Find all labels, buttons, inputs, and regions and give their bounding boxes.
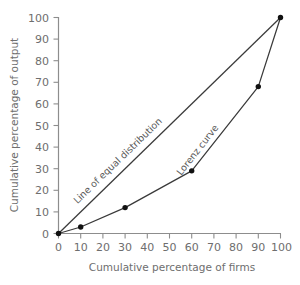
- x-axis-ticks: [59, 234, 281, 239]
- x-axis-tick-labels: 0 10 20 30 40 50 60 70 80 90 100: [55, 241, 292, 254]
- y-tick-label-80: 80: [35, 55, 49, 68]
- x-tick-label-30: 30: [118, 241, 132, 254]
- data-point: [78, 224, 83, 229]
- y-axis-tick-labels: 0 10 20 30 40 50 60 70 80 90 100: [28, 12, 49, 241]
- data-point: [189, 168, 194, 173]
- y-axis-title: Cumulative percentage of output: [8, 38, 20, 212]
- x-tick-label-100: 100: [271, 241, 292, 254]
- chart-canvas: 0 10 20 30 40 50 60 70 80 90 100: [0, 0, 300, 285]
- annotation-line-of-equal-distribution: Line of equal distribution: [71, 115, 164, 205]
- x-tick-label-40: 40: [140, 241, 154, 254]
- y-tick-label-90: 90: [35, 33, 49, 46]
- data-point: [56, 231, 61, 236]
- x-tick-label-50: 50: [163, 241, 177, 254]
- x-tick-label-20: 20: [96, 241, 110, 254]
- y-tick-label-40: 40: [35, 141, 49, 154]
- y-tick-label-20: 20: [35, 184, 49, 197]
- x-axis-title: Cumulative percentage of firms: [89, 261, 255, 273]
- y-tick-label-100: 100: [28, 12, 49, 25]
- y-tick-label-70: 70: [35, 76, 49, 89]
- x-tick-label-0: 0: [55, 241, 62, 254]
- annotation-lorenz-curve: Lorenz curve: [174, 122, 220, 177]
- y-tick-label-50: 50: [35, 120, 49, 133]
- data-point: [278, 15, 283, 20]
- x-tick-label-70: 70: [207, 241, 221, 254]
- y-tick-label-30: 30: [35, 163, 49, 176]
- y-tick-label-10: 10: [35, 206, 49, 219]
- data-point: [122, 205, 127, 210]
- y-axis-ticks: [54, 18, 59, 234]
- x-tick-label-90: 90: [251, 241, 265, 254]
- x-tick-label-60: 60: [185, 241, 199, 254]
- lorenz-curve-chart: 0 10 20 30 40 50 60 70 80 90 100: [0, 0, 300, 285]
- line-of-equal-distribution: [59, 18, 281, 234]
- x-tick-label-10: 10: [74, 241, 88, 254]
- data-point: [256, 84, 261, 89]
- x-tick-label-80: 80: [229, 241, 243, 254]
- y-tick-label-0: 0: [42, 228, 49, 241]
- y-tick-label-60: 60: [35, 98, 49, 111]
